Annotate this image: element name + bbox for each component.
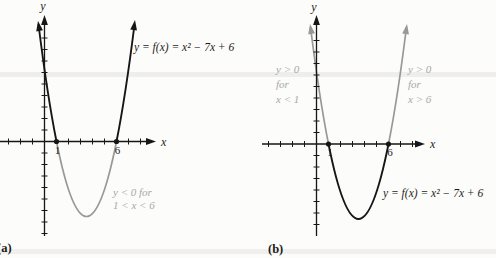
annotation-b-right-line2: for [408,78,422,90]
annotation-b-left-line3: x < 1 [275,93,299,105]
intercept-label-6-a: 6 [115,144,121,156]
figure-canvas: y x y = f(x) = x² − 7x + 6 1 6 y < 0 for… [0,0,496,258]
x-axis-label-a: x [160,135,167,149]
scan-stripe-bottom [0,249,496,254]
panel-label-b: (b) [268,242,283,256]
y-axis-label-a: y [39,0,46,13]
annotation-b-right-line1: y > 0 [407,63,432,75]
intercept-label-1-b: 1 [327,146,333,158]
annotation-b-left-line1: y > 0 [275,63,300,75]
intercept-label-6-b: 6 [387,146,393,158]
figure-background [0,0,496,258]
annotation-a-line2: 1 < x < 6 [113,199,155,211]
y-axis-label-b: y [310,0,317,14]
intercept-label-1-a: 1 [55,144,61,156]
equation-label-b: y = f(x) = x² − 7x + 6 [382,187,484,200]
panel-label-a: (a) [0,241,12,255]
parabola-figure: y x y = f(x) = x² − 7x + 6 1 6 y < 0 for… [0,0,496,258]
equation-label-a: y = f(x) = x² − 7x + 6 [133,41,235,54]
annotation-a-line1: y < 0 for [112,186,153,198]
annotation-b-left-line2: for [276,78,290,90]
x-axis-label-b: x [429,137,436,151]
annotation-b-right-line3: x > 6 [407,93,432,105]
